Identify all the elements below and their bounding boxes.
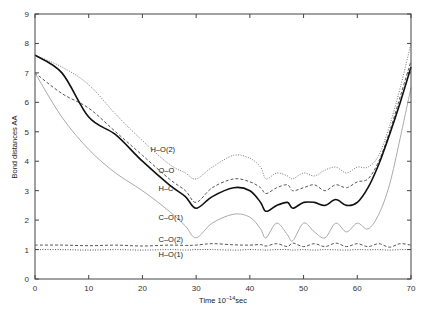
series-lines <box>35 43 411 250</box>
series-label: O–O <box>159 166 175 175</box>
bond-distance-chart: 010203040506070 0123456789 H–O(2)O–OH–CC… <box>0 0 428 319</box>
series-line <box>35 55 411 211</box>
x-axis-title: Time 10−14sec <box>199 295 247 305</box>
y-axis-title: Bond distances AA <box>10 116 19 179</box>
x-tick-label: 0 <box>33 284 38 293</box>
series-label: C–O(2) <box>159 235 184 244</box>
y-tick-label: 1 <box>25 246 30 255</box>
y-tick-label: 4 <box>25 157 30 166</box>
x-tick-label: 40 <box>245 284 254 293</box>
series-line <box>35 73 411 241</box>
y-tick-label: 9 <box>25 10 30 19</box>
x-axis-title-unit: sec <box>235 296 247 305</box>
y-tick-label: 7 <box>25 69 30 78</box>
x-axis-title-base: Time 10 <box>199 296 226 305</box>
y-tick-label: 3 <box>25 187 30 196</box>
x-tick-label: 10 <box>84 284 93 293</box>
x-tick-label: 60 <box>353 284 362 293</box>
plot-frame <box>35 14 411 279</box>
y-tick-label: 6 <box>25 98 30 107</box>
y-tick-label: 2 <box>25 216 30 225</box>
series-label: H–O(2) <box>150 145 175 154</box>
series-labels: H–O(2)O–OH–CC–O(1)C–O(2)H–O(1) <box>150 145 183 259</box>
series-line <box>35 43 411 179</box>
series-line <box>35 61 411 202</box>
x-tick-label: 70 <box>407 284 416 293</box>
series-label: H–C <box>159 184 175 193</box>
x-tick-label: 50 <box>299 284 308 293</box>
x-axis-ticks: 010203040506070 <box>33 14 416 293</box>
y-tick-label: 0 <box>25 275 30 284</box>
series-line <box>35 243 411 247</box>
series-label: H–O(1) <box>159 250 184 259</box>
x-tick-label: 30 <box>192 284 201 293</box>
y-tick-label: 5 <box>25 128 30 137</box>
series-label: C–O(1) <box>159 213 184 222</box>
series-line <box>35 250 411 251</box>
y-tick-label: 8 <box>25 39 30 48</box>
y-axis-ticks: 0123456789 <box>25 10 411 284</box>
x-tick-label: 20 <box>138 284 147 293</box>
x-axis-title-sup: −14 <box>226 295 235 301</box>
